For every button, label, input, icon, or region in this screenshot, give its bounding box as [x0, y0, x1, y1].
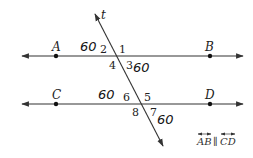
angle-4-label: 4	[109, 59, 116, 72]
label-point-b: B	[204, 40, 214, 54]
angle-3-label: 3	[126, 59, 133, 72]
parallel-note-left: AB	[196, 136, 212, 147]
label-point-c: C	[52, 88, 61, 102]
transversal-t	[95, 14, 163, 146]
handwritten-angle-6-value: 60	[98, 87, 115, 102]
angle-7-label: 7	[150, 106, 157, 119]
label-point-d: D	[204, 88, 215, 102]
transversal-label: t	[101, 8, 106, 22]
handwritten-angle-3-value: 60	[133, 60, 150, 75]
label-point-a: A	[51, 40, 61, 54]
point-a	[54, 54, 58, 58]
angle-1-label: 1	[119, 43, 126, 56]
handwritten-angle-2-value: 60	[80, 39, 97, 54]
point-b	[208, 54, 212, 58]
parallel-note-right: CD	[220, 136, 236, 147]
point-d	[208, 102, 212, 106]
angle-8-label: 8	[132, 106, 139, 119]
line-ab	[22, 54, 243, 58]
handwritten-angle-7-value: 60	[157, 112, 174, 127]
angle-2-label: 2	[100, 43, 107, 56]
point-c	[54, 102, 58, 106]
parallel-symbol: ∥	[213, 136, 218, 147]
diagram-canvas: t A B C D 2 1 4 3 6 5 8 7 60 60 60 60 AB…	[0, 0, 253, 158]
angle-5-label: 5	[144, 91, 151, 104]
angle-6-label: 6	[123, 91, 130, 104]
parallel-note: AB ∥ CD	[196, 134, 236, 147]
